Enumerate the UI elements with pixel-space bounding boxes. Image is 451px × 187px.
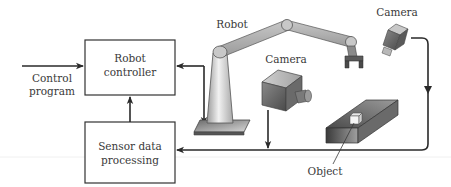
robot-controller-label-line1: Robot <box>114 52 146 64</box>
robot-vision-diagram: Robot controller Sensor data processing … <box>0 0 451 187</box>
robot-controller-label-line2: controller <box>104 66 157 78</box>
robot-controller-block[interactable]: Robot controller <box>85 40 175 95</box>
object-label: Object <box>308 165 344 177</box>
robot-forearm <box>286 20 352 47</box>
sensor-processing-block[interactable]: Sensor data processing <box>85 122 175 183</box>
feedback-down-arrowhead <box>424 86 432 94</box>
robot-shoulder-joint <box>213 46 227 58</box>
sensor-processing-label-line1: Sensor data <box>98 140 162 152</box>
camera-fixed-label: Camera <box>265 53 307 65</box>
robot-label: Robot <box>216 18 248 30</box>
control-program-input: Control program <box>22 66 83 97</box>
work-table <box>326 100 398 143</box>
sensor-processing-label-line2: processing <box>101 154 159 166</box>
camera-overhead: Camera <box>376 6 418 56</box>
camera-overhead-label: Camera <box>376 6 418 18</box>
robot-gripper <box>345 56 363 68</box>
camera-fixed: Camera <box>262 53 312 111</box>
robot-elbow-joint <box>282 20 293 31</box>
control-program-label-line1: Control <box>32 72 73 84</box>
robot-column <box>207 53 233 123</box>
control-program-label-line2: program <box>29 85 75 97</box>
object-cube <box>350 113 362 124</box>
